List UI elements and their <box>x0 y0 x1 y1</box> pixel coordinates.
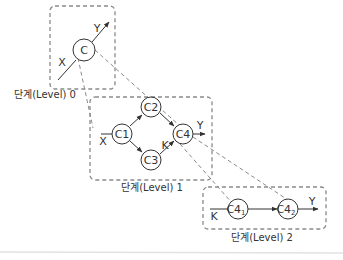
bottom-separator <box>0 252 343 253</box>
node-c4-1: C41 <box>226 199 248 219</box>
node-c4-label: C4 <box>176 128 191 141</box>
level0-y-label: Y <box>93 22 101 35</box>
level2-k-label: K <box>210 210 218 223</box>
level-1-label: 단계(Level) 1 <box>121 182 183 193</box>
node-c2-label: C2 <box>144 101 159 114</box>
node-c-label: C <box>80 44 88 57</box>
edge-c1-c3 <box>130 141 142 152</box>
edge-c1-c2 <box>130 115 142 126</box>
level0-x-label: X <box>58 56 66 69</box>
level-2-box <box>203 187 326 229</box>
node-c: C <box>73 39 95 61</box>
node-c2: C2 <box>141 97 161 117</box>
node-c1: C1 <box>112 124 132 144</box>
projection-line <box>78 58 93 128</box>
projection-line <box>193 137 294 204</box>
level-0-label: 단계(Level) 0 <box>14 89 76 100</box>
level1-x-label: X <box>99 135 107 148</box>
node-c1-label: C1 <box>115 128 130 141</box>
node-c4: C4 <box>173 124 193 144</box>
decomposition-diagram: C X Y 단계(Level) 0 C1 C2 C3 C4 X Y K 단계(L… <box>0 0 343 260</box>
level-2-label: 단계(Level) 2 <box>231 232 293 243</box>
projection-line <box>180 144 233 204</box>
node-c4-2: C42 <box>276 199 298 219</box>
node-c3: C3 <box>141 150 161 170</box>
node-c3-label: C3 <box>144 154 159 167</box>
level2-y-label: Y <box>308 195 316 208</box>
level1-k-label: K <box>161 139 169 152</box>
projection-line <box>95 50 180 126</box>
level1-y-label: Y <box>196 119 204 132</box>
edge-c2-c4 <box>160 113 174 126</box>
